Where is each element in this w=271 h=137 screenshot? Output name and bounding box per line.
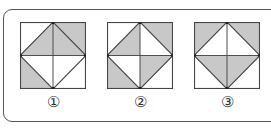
figure-3-diagram: [194, 22, 260, 89]
figure-1-diagram: [20, 22, 86, 89]
figure-1-label[interactable]: ①: [38, 94, 68, 110]
figure-2-label[interactable]: ②: [125, 94, 155, 110]
figure-1[interactable]: [20, 22, 86, 89]
figure-2[interactable]: [107, 22, 173, 89]
figure-3-label[interactable]: ③: [212, 94, 242, 110]
figure-2-diagram: [107, 22, 173, 89]
figure-3[interactable]: [194, 22, 260, 89]
